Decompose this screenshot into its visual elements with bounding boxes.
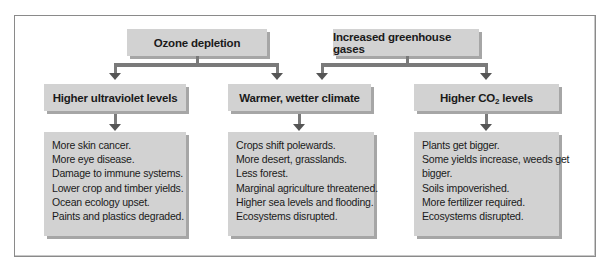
arrow-down-icon — [480, 124, 492, 131]
consequence-item: More fertilizer required. — [422, 195, 551, 209]
consequence-item: Some yields increase, weeds get — [422, 152, 551, 166]
consequence-item: Paints and plastics degraded. — [52, 209, 178, 223]
consequences-co2: Plants get bigger. Some yields increase,… — [414, 132, 559, 236]
effect-warmer-climate: Warmer, wetter climate — [228, 84, 371, 111]
arrow-down-icon — [480, 73, 492, 80]
consequence-item: More desert, grasslands. — [236, 152, 366, 166]
connector-greenhouse-bar — [321, 63, 488, 67]
arrow-down-icon — [316, 73, 328, 80]
effect-co2-levels: Higher CO2 levels — [414, 84, 559, 111]
effect-label-suffix: levels — [499, 92, 533, 104]
cause-ozone-depletion: Ozone depletion — [127, 29, 267, 56]
consequence-item: More eye disease. — [52, 152, 178, 166]
consequence-item: Lower crop and timber yields. — [52, 181, 178, 195]
arrow-down-icon — [109, 124, 121, 131]
consequences-uv: More skin cancer. More eye disease. Dama… — [44, 132, 186, 236]
consequence-item: Ecosystems disrupted. — [236, 209, 366, 223]
effect-uv-levels: Higher ultraviolet levels — [44, 84, 186, 111]
arrow-down-icon — [271, 73, 283, 80]
consequence-item: More skin cancer. — [52, 138, 178, 152]
consequence-item: Crops shift polewards. — [236, 138, 366, 152]
cause-label: Ozone depletion — [154, 37, 240, 49]
consequence-item: Less forest. — [236, 166, 366, 180]
consequence-item: bigger. — [422, 166, 551, 180]
effect-label: Higher ultraviolet levels — [53, 92, 178, 104]
arrow-down-icon — [109, 73, 121, 80]
consequence-item: Damage to immune systems. — [52, 166, 178, 180]
effect-label: Warmer, wetter climate — [239, 92, 359, 104]
consequence-item: Plants get bigger. — [422, 138, 551, 152]
consequence-item: Ecosystems disrupted. — [422, 209, 551, 223]
consequence-item: Higher sea levels and flooding. — [236, 195, 366, 209]
connector-ozone-bar — [114, 63, 279, 67]
consequence-item: Ocean ecology upset. — [52, 195, 178, 209]
consequence-item: Soils impoverished. — [422, 181, 551, 195]
consequence-item: Marginal agriculture threatened. — [236, 181, 366, 195]
cause-label: Increased greenhouse gases — [333, 31, 479, 55]
consequences-climate: Crops shift polewards. More desert, gras… — [228, 132, 374, 236]
effect-label-prefix: Higher CO — [440, 92, 495, 104]
effect-label: Higher CO2 levels — [440, 92, 533, 104]
cause-greenhouse-gases: Increased greenhouse gases — [333, 29, 479, 56]
arrow-down-icon — [293, 124, 305, 131]
